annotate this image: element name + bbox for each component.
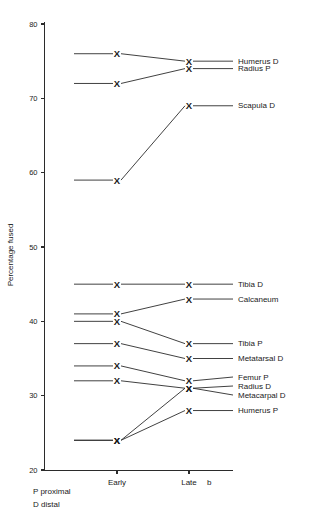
y-tick-label-60: 60	[29, 168, 37, 177]
series-label: Tibia P	[238, 339, 263, 348]
data-point-marker: X	[186, 100, 193, 111]
x-tick-label-early: Early	[108, 478, 126, 487]
x-axis-ticks: EarlyLateb	[108, 470, 212, 487]
data-point-marker: X	[114, 48, 121, 59]
series-scapula-d: XX	[74, 100, 233, 185]
series-label: Tibia D	[238, 280, 263, 289]
data-point-marker: X	[114, 78, 121, 89]
data-point-marker: X	[186, 294, 193, 305]
series-label: Femur P	[238, 373, 269, 382]
series-label: Metatarsal D	[238, 354, 284, 363]
y-tick-label-50: 50	[29, 243, 37, 252]
series-segment	[121, 299, 185, 314]
data-point-marker: X	[114, 338, 121, 349]
series-tibia-p: XX	[74, 316, 233, 349]
data-point-marker: X	[114, 375, 121, 386]
series-label: Humerus P	[238, 406, 278, 415]
footnote-proximal: P proximal	[33, 487, 71, 496]
y-tick-label-80: 80	[29, 20, 37, 29]
data-point-marker: X	[114, 279, 121, 290]
series-label: Metacarpal D	[238, 391, 286, 400]
data-point-marker: X	[114, 175, 121, 186]
series-segment	[121, 388, 185, 440]
series-calcaneum: XX	[74, 294, 233, 320]
series-label-group: Humerus DRadius PScapula DTibia DCalcane…	[238, 57, 286, 415]
y-tick-label-30: 30	[29, 391, 37, 400]
x-tick-label-late: Late	[181, 478, 197, 487]
y-tick-label-40: 40	[29, 317, 37, 326]
data-point-marker: X	[186, 405, 193, 416]
series-segment	[121, 366, 185, 381]
chart-container: 20304050607080 EarlyLateb XXXXXXXXXXXXXX…	[0, 0, 309, 527]
data-point-marker: X	[186, 338, 193, 349]
series-label: Radius P	[238, 64, 270, 73]
series-segment	[121, 321, 185, 343]
data-point-marker: X	[186, 383, 193, 394]
footnote-distal: D distal	[33, 500, 60, 509]
data-point-marker: X	[114, 435, 121, 446]
series-segment	[121, 381, 185, 388]
series-segment	[121, 54, 185, 61]
y-axis-line	[45, 22, 234, 471]
series-humerus-d: XX	[74, 48, 233, 66]
series-label: Scapula D	[238, 101, 275, 110]
data-point-marker: X	[186, 63, 193, 74]
y-axis-ticks: 20304050607080	[29, 20, 44, 475]
series-segment	[121, 106, 185, 180]
right-leader-line	[193, 388, 233, 395]
series-segment	[121, 69, 185, 84]
chart-axes	[45, 22, 234, 471]
data-series-group: XXXXXXXXXXXXXXXXXXXXXX	[74, 48, 233, 446]
data-point-marker: X	[186, 353, 193, 364]
series-radius-p: XX	[74, 63, 233, 89]
x-tick-label-b: b	[207, 478, 212, 487]
series-femur-p: XX	[74, 360, 233, 386]
percentage-fused-line-chart: 20304050607080 EarlyLateb XXXXXXXXXXXXXX…	[0, 0, 309, 527]
data-point-marker: X	[186, 279, 193, 290]
series-label: Calcaneum	[238, 295, 279, 304]
y-tick-label-20: 20	[29, 466, 37, 475]
series-humerus-p: XX	[74, 405, 233, 446]
series-segment	[121, 411, 185, 441]
series-tibia-d: XX	[74, 279, 233, 290]
right-leader-line	[193, 377, 233, 381]
data-point-marker: X	[114, 316, 121, 327]
series-metatarsal-d: XX	[74, 338, 233, 364]
series-metacarpal-d: XX	[74, 383, 233, 446]
y-axis-title: Percentage fused	[6, 224, 15, 287]
series-segment	[121, 344, 185, 359]
y-tick-label-70: 70	[29, 94, 37, 103]
right-leader-line	[193, 386, 233, 388]
series-label: Radius D	[238, 382, 271, 391]
data-point-marker: X	[114, 360, 121, 371]
